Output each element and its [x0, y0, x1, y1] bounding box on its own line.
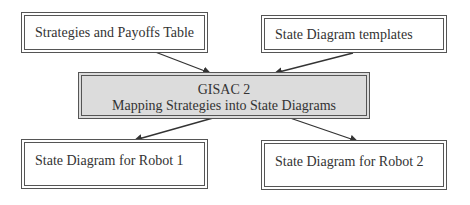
- node-gisac-2: GISAC 2 Mapping Strategies into State Di…: [78, 72, 370, 119]
- arrow-gisac-to-robot1: [135, 118, 213, 140]
- node-label: State Diagram for Robot 2: [275, 154, 443, 170]
- node-state-diagram-robot-1: State Diagram for Robot 1: [21, 139, 208, 189]
- node-label: State Diagram templates: [275, 27, 443, 43]
- node-strategies-payoffs-table: Strategies and Payoffs Table: [21, 12, 208, 53]
- node-label: Strategies and Payoffs Table: [35, 25, 204, 41]
- node-subtitle: Mapping Strategies into State Diagrams: [82, 98, 366, 114]
- arrow-strategies-to-gisac: [150, 50, 210, 73]
- arrow-templates-to-gisac: [275, 53, 353, 73]
- node-label: State Diagram for Robot 1: [35, 153, 204, 169]
- arrow-gisac-to-robot2: [290, 118, 357, 141]
- node-state-diagram-robot-2: State Diagram for Robot 2: [261, 140, 447, 190]
- node-state-diagram-templates: State Diagram templates: [261, 15, 447, 53]
- node-title: GISAC 2: [82, 82, 366, 98]
